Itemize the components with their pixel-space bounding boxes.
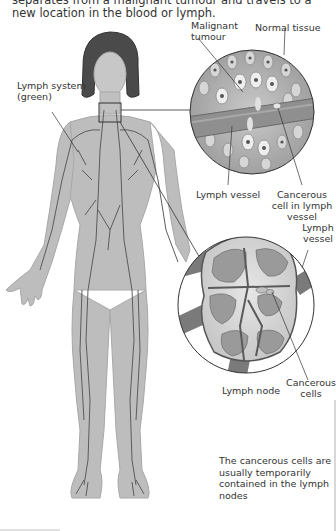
label-malignant-tumour: Malignant tumour	[191, 20, 251, 42]
label-lymph-vessel-right: Lymph vessel	[300, 222, 336, 244]
tissue-magnified-circle	[180, 50, 330, 174]
label-lymph-node: Lymph node	[222, 385, 292, 396]
label-cancerous-cell-in-vessel: Cancerous cell in lymph vessel	[268, 189, 336, 222]
caption-text: The cancerous cells are usually temporar…	[219, 455, 331, 501]
label-lymph-vessel-top: Lymph vessel	[196, 189, 266, 200]
label-cancerous-cells: Cancerous cells	[286, 377, 336, 399]
label-normal-tissue: Normal tissue	[255, 22, 335, 33]
label-lymph-system: Lymph system (green)	[17, 80, 92, 102]
